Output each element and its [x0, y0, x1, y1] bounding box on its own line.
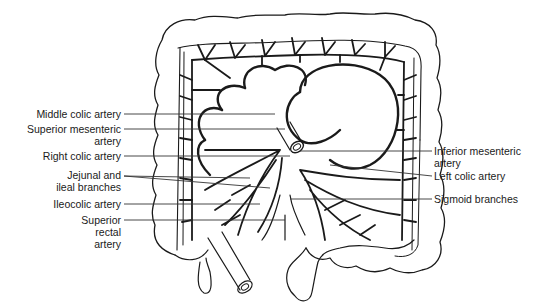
label-sigmoid-branches: Sigmoid branches: [434, 193, 518, 205]
label-superior-rectal-artery: Superior rectal artery: [81, 214, 121, 250]
label-ileocolic-artery: Ileocolic artery: [53, 198, 121, 210]
small-intestine-loops: [198, 64, 398, 175]
appendix: [198, 258, 211, 293]
label-jejunal-ileal-branches: Jejunal and ileal branches: [56, 169, 121, 193]
label-right-colic-artery: Right colic artery: [43, 150, 121, 162]
label-inferior-mesenteric-artery: Inferior mesenteric artery: [434, 145, 521, 169]
label-middle-colic-artery: Middle colic artery: [36, 108, 121, 120]
label-left-colic-artery: Left colic artery: [434, 170, 505, 182]
label-superior-mesenteric-artery: Superior mesenteric artery: [27, 123, 121, 147]
